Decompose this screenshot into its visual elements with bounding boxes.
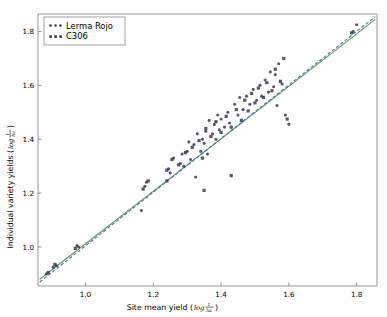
legend-marker-square: [49, 35, 62, 38]
data-point: [209, 135, 212, 138]
data-point: [247, 109, 250, 112]
data-point: [214, 120, 217, 123]
data-point: [274, 73, 277, 76]
data-point: [177, 163, 180, 166]
data-point: [355, 23, 358, 26]
data-point: [230, 126, 233, 129]
x-axis-frac-numerator: t: [208, 302, 210, 307]
data-point: [165, 179, 168, 182]
y-axis-frac-denominator: ha: [11, 131, 16, 137]
data-point: [206, 152, 209, 155]
data-point: [230, 174, 233, 177]
data-point: [213, 123, 216, 126]
data-point: [201, 138, 204, 141]
data-point: [255, 99, 258, 102]
data-point: [274, 68, 277, 71]
data-point: [248, 103, 251, 106]
data-point: [143, 185, 146, 188]
x-tick-label: 1.6: [283, 290, 295, 299]
data-point: [196, 132, 199, 135]
data-point: [165, 169, 168, 172]
y-tick-label: 1.8: [23, 27, 35, 36]
data-point: [287, 123, 290, 126]
data-point: [270, 89, 273, 92]
scatter-plot: 1.01.21.41.61.8 1.01.21.41.61.8 Site mea…: [0, 0, 387, 317]
data-point: [265, 81, 268, 84]
data-point: [218, 128, 221, 131]
y-axis-paren-close: ): [6, 125, 15, 128]
data-point: [233, 103, 236, 106]
data-point: [220, 117, 223, 120]
data-point: [262, 96, 265, 99]
data-point: [197, 139, 200, 142]
data-point: [204, 130, 207, 133]
y-tick-label: 1.0: [23, 243, 35, 252]
data-point: [192, 143, 195, 146]
data-point: [203, 189, 206, 192]
legend-label-lerma-rojo: Lerma Rojo: [66, 21, 113, 31]
data-point: [53, 263, 56, 266]
data-point: [170, 158, 173, 161]
y-axis-log-symbol: log: [7, 139, 15, 149]
data-point: [211, 132, 214, 135]
x-tick-label: 1.8: [351, 290, 363, 299]
x-axis-paren-close: ): [215, 303, 218, 312]
data-point: [147, 179, 150, 182]
data-point: [194, 175, 197, 178]
data-point: [250, 92, 253, 95]
data-point: [257, 86, 260, 89]
data-point: [182, 165, 185, 168]
data-point: [77, 245, 80, 248]
data-point: [253, 101, 256, 104]
data-point: [245, 95, 248, 98]
data-point: [277, 62, 280, 65]
data-point: [279, 80, 282, 83]
data-point: [282, 57, 285, 60]
data-point: [236, 113, 239, 116]
data-point: [219, 131, 222, 134]
data-point: [286, 117, 289, 120]
data-point: [141, 187, 144, 190]
data-point: [184, 151, 187, 154]
data-point: [47, 271, 50, 274]
data-point: [235, 108, 238, 111]
figure-canvas: 1.01.21.41.61.8 1.01.21.41.61.8 Site mea…: [0, 0, 387, 317]
x-tick-label: 1.0: [80, 290, 92, 299]
data-point: [181, 152, 184, 155]
data-point: [74, 247, 77, 250]
y-tick-label: 1.6: [23, 81, 35, 90]
legend-label-c306: C306: [66, 31, 88, 41]
data-point: [243, 99, 246, 102]
data-point: [169, 171, 172, 174]
data-point: [225, 115, 228, 118]
y-axis-label: Individual variety yields ( log t ha ): [5, 125, 16, 248]
y-tick-label: 1.4: [23, 135, 35, 144]
data-point: [204, 127, 207, 130]
data-point: [52, 266, 55, 269]
data-point: [216, 113, 219, 116]
data-point: [240, 119, 243, 122]
data-point: [226, 111, 229, 114]
x-tick-label: 1.2: [148, 290, 159, 299]
x-tick-label: 1.4: [215, 290, 227, 299]
data-point: [187, 140, 190, 143]
data-point: [264, 78, 267, 81]
legend-marker-dot: [49, 24, 62, 27]
data-point: [238, 96, 241, 99]
x-axis-label: Site mean yield ( log t ha ): [127, 302, 218, 313]
x-axis-frac-denominator: ha: [206, 308, 212, 313]
x-axis-log-symbol: log: [194, 304, 204, 312]
legend[interactable]: Lerma Rojo C306: [44, 17, 125, 45]
data-point: [242, 108, 245, 111]
data-point: [269, 70, 272, 73]
data-point: [223, 126, 226, 129]
data-point: [281, 82, 284, 85]
data-point: [275, 104, 278, 107]
y-tick-label: 1.2: [23, 189, 34, 198]
data-point: [140, 209, 143, 212]
data-point: [228, 122, 231, 125]
data-point: [201, 156, 204, 159]
x-axis-label-text: Site mean yield (: [127, 303, 193, 312]
y-axis-label-text: Individual variety yields (: [6, 150, 15, 248]
data-point: [284, 113, 287, 116]
